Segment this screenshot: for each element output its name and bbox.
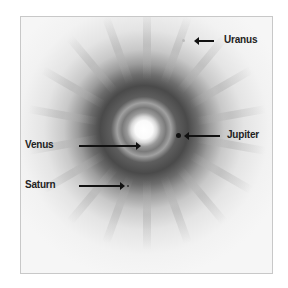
saturn-arrow (79, 185, 121, 187)
venus-label: Venus (25, 139, 53, 150)
uranus-label: Uranus (224, 34, 257, 45)
uranus-arrow (198, 40, 214, 42)
jupiter-arrow (188, 135, 220, 137)
sky-image: Uranus Jupiter Venus Saturn (20, 16, 273, 274)
saturn-label: Saturn (25, 179, 55, 190)
venus-arrow (79, 145, 137, 147)
saturn-dot (127, 185, 129, 187)
uranus-dot (182, 39, 185, 42)
jupiter-label: Jupiter (227, 129, 259, 140)
jupiter-dot (176, 133, 181, 138)
